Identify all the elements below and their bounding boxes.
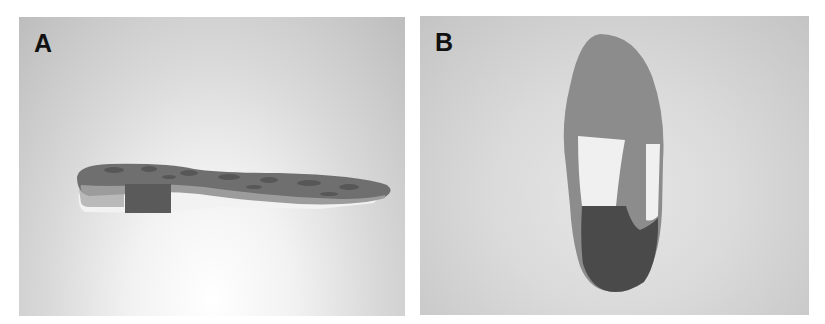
insole-bottom-photo bbox=[420, 16, 809, 315]
panel-a-side-view: A bbox=[19, 17, 405, 316]
panel-b-bottom-view: B bbox=[420, 16, 809, 315]
insole-side-photo bbox=[19, 17, 405, 316]
